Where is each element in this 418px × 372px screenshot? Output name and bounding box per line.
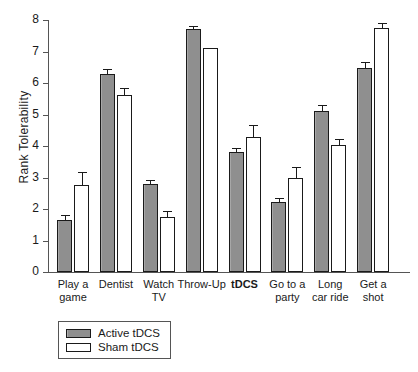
y-tick: 0 [43, 272, 48, 273]
error-bar-cap [189, 26, 198, 27]
y-tick-label: 7 [32, 44, 39, 59]
legend-item-active: Active tDCS [66, 326, 160, 340]
y-tick-label: 8 [32, 12, 39, 27]
error-bar-line [296, 167, 297, 178]
plot-area: 012345678 Play agameDentistWatchTVThrow-… [48, 20, 410, 272]
y-tick-label: 6 [32, 75, 39, 90]
y-tick: 2 [43, 209, 48, 210]
error-bar-cap [275, 198, 284, 199]
y-tick: 4 [43, 146, 48, 147]
legend-swatch-sham-icon [66, 343, 91, 352]
legend-label-active: Active tDCS [98, 327, 160, 340]
bar-group [314, 20, 346, 272]
y-tick-label: 0 [32, 264, 39, 279]
bar-active-tdcs [143, 184, 158, 272]
error-bar-cap [61, 215, 70, 216]
bar-sham-tdcs [288, 178, 303, 272]
bar-group [229, 20, 261, 272]
y-tick-label: 1 [32, 233, 39, 248]
y-tick-label: 2 [32, 201, 39, 216]
bar-group [143, 20, 175, 272]
bar-active-tdcs [314, 111, 329, 272]
bar-sham-tdcs [374, 28, 389, 272]
y-tick-label: 3 [32, 170, 39, 185]
y-tick: 8 [43, 20, 48, 21]
y-axis-title: Rank Tolerability [17, 57, 31, 217]
chart-legend: Active tDCS Sham tDCS [58, 321, 171, 359]
y-tick: 5 [43, 115, 48, 116]
bar-sham-tdcs [246, 137, 261, 272]
y-tick-label: 5 [32, 107, 39, 122]
error-bar-cap [361, 62, 370, 63]
error-bar-cap [335, 139, 344, 140]
y-tick: 3 [43, 178, 48, 179]
y-tick-label: 4 [32, 138, 39, 153]
error-bar-cap [249, 125, 258, 126]
bar-active-tdcs [357, 68, 372, 272]
error-bar-line [253, 125, 254, 137]
legend-item-sham: Sham tDCS [66, 340, 160, 354]
y-tick: 7 [43, 52, 48, 53]
y-axis-line [48, 20, 49, 273]
error-bar-cap [163, 211, 172, 212]
bar-group [357, 20, 389, 272]
error-bar-cap [120, 88, 129, 89]
error-bar-cap [78, 172, 87, 173]
error-bar-cap [378, 23, 387, 24]
error-bar-cap [232, 148, 241, 149]
error-bar-cap [292, 167, 301, 168]
bar-active-tdcs [229, 152, 244, 272]
bar-sham-tdcs [331, 145, 346, 272]
error-bar-cap [318, 105, 327, 106]
legend-label-sham: Sham tDCS [98, 341, 159, 354]
x-tick-label-line: TV [130, 291, 188, 304]
bar-group [57, 20, 89, 272]
bar-group [186, 20, 218, 272]
error-bar-line [82, 172, 83, 185]
bar-chart-figure: Rank Tolerability 012345678 Play agameDe… [0, 0, 418, 372]
bar-active-tdcs [271, 202, 286, 272]
x-tick-label-line: shot [344, 291, 402, 304]
y-tick: 1 [43, 241, 48, 242]
x-tick-label-line: game [44, 291, 102, 304]
bar-active-tdcs [57, 220, 72, 272]
y-tick: 6 [43, 83, 48, 84]
x-tick-label-line: Get a [344, 278, 402, 291]
x-axis-line [48, 272, 410, 273]
bar-sham-tdcs [117, 95, 132, 272]
bar-active-tdcs [100, 74, 115, 272]
bar-sham-tdcs [74, 185, 89, 272]
x-tick-label: Get ashot [344, 278, 402, 303]
bar-active-tdcs [186, 29, 201, 272]
bar-group [100, 20, 132, 272]
legend-swatch-active-icon [66, 329, 91, 338]
bar-sham-tdcs [160, 217, 175, 272]
bar-group [271, 20, 303, 272]
bar-sham-tdcs [203, 48, 218, 272]
error-bar-cap [146, 180, 155, 181]
error-bar-cap [103, 69, 112, 70]
